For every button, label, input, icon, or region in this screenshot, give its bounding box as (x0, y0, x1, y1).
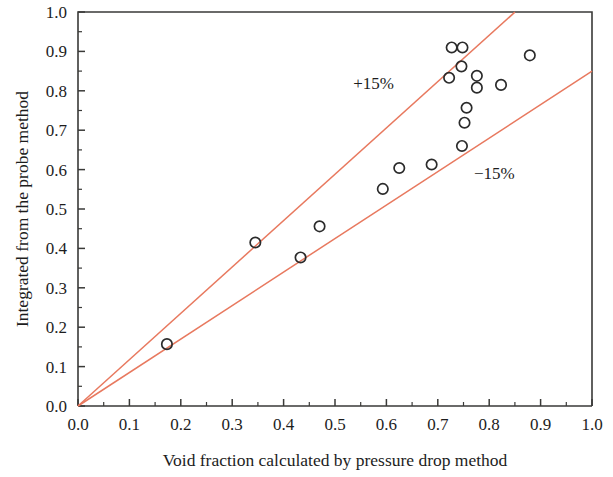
y-axis-title: Integrated from the probe method (12, 91, 32, 327)
reference-label-plus-15-percent: +15% (353, 74, 394, 93)
x-tick-label: 0.0 (67, 415, 88, 434)
x-axis-title: Void fraction calculated by pressure dro… (163, 450, 508, 470)
y-tick-label: 0.4 (46, 239, 68, 258)
x-tick-label: 0.9 (530, 415, 551, 434)
data-point (426, 159, 436, 169)
reference-label-minus-15-percent: −15% (474, 164, 515, 183)
data-point (472, 71, 482, 81)
x-tick-label: 0.5 (324, 415, 345, 434)
data-point (314, 221, 324, 231)
x-tick-label: 0.3 (222, 415, 243, 434)
x-tick-label: 0.8 (479, 415, 500, 434)
data-point (457, 141, 467, 151)
x-tick-label: 0.6 (376, 415, 397, 434)
y-tick-label: 0.2 (46, 318, 67, 337)
data-point (378, 184, 388, 194)
data-point (444, 73, 454, 83)
data-point (457, 42, 467, 52)
reference-line-plus-15-percent (78, 12, 515, 406)
x-tick-label: 1.0 (581, 415, 602, 434)
y-tick-label: 0.3 (46, 279, 67, 298)
y-tick-label: 0.8 (46, 82, 67, 101)
data-point (459, 118, 469, 128)
y-tick-label: 1.0 (46, 3, 67, 22)
reference-line-minus-15-percent (78, 71, 592, 406)
data-point (472, 82, 482, 92)
x-tick-label: 0.1 (119, 415, 140, 434)
y-tick-label: 0.7 (46, 121, 68, 140)
data-point (456, 61, 466, 71)
x-tick-label: 0.7 (427, 415, 449, 434)
y-tick-label: 0.6 (46, 161, 67, 180)
y-tick-label: 0.9 (46, 42, 67, 61)
scatter-plot-figure: 0.00.10.20.30.40.50.60.70.80.91.00.00.10… (0, 0, 613, 477)
data-point (496, 80, 506, 90)
x-tick-label: 0.4 (273, 415, 295, 434)
data-point (525, 50, 535, 60)
plot-canvas: 0.00.10.20.30.40.50.60.70.80.91.00.00.10… (0, 0, 613, 477)
x-tick-label: 0.2 (170, 415, 191, 434)
plot-frame (78, 12, 592, 406)
data-point (394, 163, 404, 173)
y-tick-label: 0.5 (46, 200, 67, 219)
data-point (446, 42, 456, 52)
y-tick-label: 0.0 (46, 397, 67, 416)
y-tick-label: 0.1 (46, 358, 67, 377)
data-point (461, 103, 471, 113)
